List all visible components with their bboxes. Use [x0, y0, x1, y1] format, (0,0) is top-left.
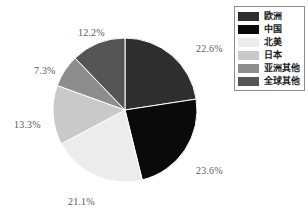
- pie-data-label: 12.2%: [78, 28, 105, 38]
- legend-item-label: 欧洲: [264, 11, 282, 21]
- legend-item-label: 亚洲其他: [264, 63, 300, 73]
- legend-item-label: 日本: [264, 50, 282, 60]
- legend-swatch-icon: [238, 25, 259, 34]
- pie-slice: [125, 38, 196, 110]
- pie-data-label: 22.6%: [196, 44, 223, 54]
- pie-chart: 22.6%23.6%21.1%13.3%7.3%12.2% 欧洲中国北美日本亚洲…: [0, 0, 308, 218]
- legend-swatch-icon: [238, 51, 259, 60]
- pie-slice-group: [53, 38, 197, 182]
- pie-data-label: 21.1%: [68, 197, 95, 207]
- legend-item: 中国: [238, 23, 300, 35]
- pie-data-label: 13.3%: [14, 120, 41, 130]
- legend-item: 日本: [238, 49, 300, 61]
- pie-data-label: 7.3%: [34, 66, 56, 76]
- legend-swatch-icon: [238, 12, 259, 21]
- legend-swatch-icon: [238, 64, 259, 73]
- legend-item: 亚洲其他: [238, 62, 300, 74]
- legend-item-label: 全球其他: [264, 76, 300, 86]
- legend-item-label: 中国: [264, 24, 282, 34]
- chart-legend: 欧洲中国北美日本亚洲其他全球其他: [234, 6, 305, 91]
- legend-swatch-icon: [238, 77, 259, 86]
- legend-item: 北美: [238, 36, 300, 48]
- legend-item-label: 北美: [264, 37, 282, 47]
- legend-swatch-icon: [238, 38, 259, 47]
- legend-item: 欧洲: [238, 10, 300, 22]
- legend-item: 全球其他: [238, 75, 300, 87]
- pie-data-label: 23.6%: [196, 166, 223, 176]
